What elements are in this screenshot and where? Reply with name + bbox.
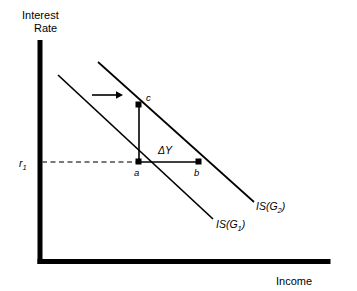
is-g1-label-arg: G [229,218,237,230]
rightward-shift-arrow [92,91,123,99]
point-marker-b [196,159,202,165]
is-g1-label-prefix: IS [216,218,226,230]
diagram-canvas: Interest Rate Income r1 IS(G1) IS(G2) [0,0,357,291]
point-label-c: c [146,92,151,103]
y-axis-label-line1: Interest [22,9,59,21]
delta-y-annotation: ΔY [157,144,173,156]
is-curve-shift-figure: Interest Rate Income r1 IS(G1) IS(G2) [0,0,357,291]
y-axis-label-line2: Rate [34,22,57,34]
is-g2-label-arg: G [269,200,277,212]
r1-sub: 1 [23,163,27,172]
svg-text:r1: r1 [19,157,27,172]
is-g2-curve [98,62,254,202]
point-marker-c [136,102,142,108]
x-axis-label: Income [276,275,312,287]
is-g1-label: IS(G1) [216,218,245,233]
y-tick-label-r1: r1 [19,157,27,172]
y-axis [38,40,43,264]
point-label-a: a [134,167,139,178]
is-g2-label: IS(G2) [256,200,285,215]
is-g2-label-prefix: IS [256,200,266,212]
point-label-b: b [194,167,199,178]
x-axis [38,259,331,264]
point-marker-a [136,159,142,165]
